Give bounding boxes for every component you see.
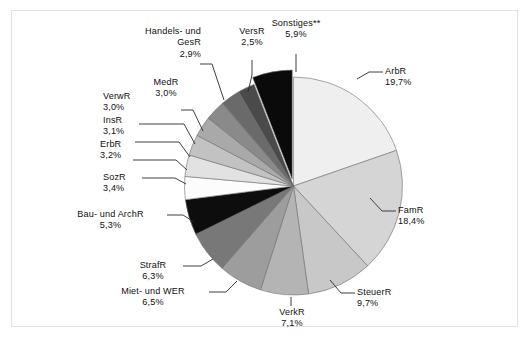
leader-line-arbr: [357, 72, 383, 79]
slice-label-verwr-name: VerwR: [103, 91, 131, 102]
slice-label-miet-und-wer-percent: 6,5%: [100, 297, 206, 308]
slice-label-handels-und-gesr-name2: GesR: [96, 37, 201, 48]
slice-label-insr-percent: 3,1%: [103, 126, 124, 137]
slice-label-sozr-name: SozR: [103, 172, 126, 183]
slice-label-erbr-name: ErbR: [100, 139, 121, 150]
slice-label-erbr-percent: 3,2%: [100, 150, 121, 161]
slice-label-verwr: VerwR 3,0%: [103, 91, 131, 114]
slice-label-verkr-percent: 7,1%: [266, 318, 318, 329]
slice-label-miet-und-wer: Miet- und WER 6,5%: [100, 286, 206, 309]
slice-label-sozr-percent: 3,4%: [103, 183, 126, 194]
slice-label-strafr: StrafR 6,3%: [126, 260, 180, 283]
slice-label-strafr-name: StrafR: [126, 260, 180, 271]
pie-slices-group: [184, 70, 402, 295]
leader-line-verwr: [139, 124, 195, 144]
leader-line-insr: [135, 142, 190, 157]
slice-label-bau-und-archr-percent: 5,3%: [57, 220, 164, 231]
slice-label-insr: InsR 3,1%: [103, 115, 124, 138]
slice-label-erbr: ErbR 3,2%: [100, 139, 121, 162]
slice-label-handels-und-gesr-name: Handels- und: [96, 26, 201, 37]
slice-label-sonstiges: Sonstiges** 5,9%: [256, 18, 336, 41]
slice-label-famr: FamR 18,4%: [398, 205, 425, 228]
leader-line-miet-und-wer: [209, 281, 237, 292]
slice-label-handels-und-gesr-percent: 2,9%: [96, 49, 201, 60]
slice-label-steuerr-percent: 9,7%: [357, 298, 391, 309]
slice-label-arbr-percent: 19,7%: [385, 77, 412, 88]
slice-label-miet-und-wer-name: Miet- und WER: [100, 286, 206, 297]
leader-line-strafr: [183, 259, 213, 266]
leader-line-handels-und-gesr: [200, 64, 224, 100]
slice-label-bau-und-archr-name: Bau- und ArchR: [57, 209, 164, 220]
slice-label-steuerr-name: SteuerR: [357, 287, 391, 298]
slice-label-verkr-name: VerkR: [266, 307, 318, 318]
leader-line-sozr: [142, 178, 186, 184]
slice-label-sonstiges-percent: 5,9%: [256, 29, 336, 40]
slice-label-verwr-percent: 3,0%: [103, 102, 131, 113]
slice-label-bau-und-archr: Bau- und ArchR 5,3%: [57, 209, 164, 232]
slice-label-famr-percent: 18,4%: [398, 216, 425, 227]
slice-label-medr-name: MedR: [146, 77, 186, 88]
leader-line-medr: [181, 110, 203, 131]
slice-label-famr-name: FamR: [398, 205, 425, 216]
slice-label-insr-name: InsR: [103, 115, 124, 126]
slice-label-medr-percent: 3,0%: [146, 88, 186, 99]
slice-label-sonstiges-name: Sonstiges**: [256, 18, 336, 29]
slice-label-verkr: VerkR 7,1%: [266, 307, 318, 330]
chart-page: ArbR 19,7% FamR 18,4% SteuerR 9,7% VerkR…: [0, 0, 529, 338]
leader-line-erbr: [133, 160, 187, 170]
slice-label-strafr-percent: 6,3%: [126, 271, 180, 282]
slice-label-handels-und-gesr: Handels- und GesR 2,9%: [96, 26, 201, 60]
slice-label-arbr: ArbR 19,7%: [385, 66, 412, 89]
slice-label-arbr-name: ArbR: [385, 66, 412, 77]
slice-label-medr: MedR 3,0%: [146, 77, 186, 100]
slice-label-steuerr: SteuerR 9,7%: [357, 287, 391, 310]
pie-chart: [0, 0, 529, 338]
slice-label-sozr: SozR 3,4%: [103, 172, 126, 195]
